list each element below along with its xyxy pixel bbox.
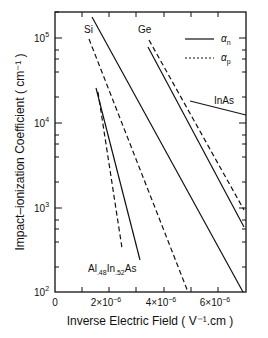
x-axis-ticks: [82, 12, 218, 292]
x-tick-labels: 0 2×10−6 4×10−6 6×10−6: [52, 296, 230, 308]
annotation-inas: InAs: [214, 95, 234, 106]
impact-ionization-chart: 105 104 103 102 0 2×10−6 4×10−6 6×10−6 I…: [0, 0, 268, 338]
y-tick-labels: 105 104 103 102: [34, 31, 49, 298]
y-tick-1e5: 105: [34, 31, 49, 44]
y-tick-1e4: 104: [34, 116, 49, 129]
x-tick-6e-6: 6×10−6: [200, 296, 231, 308]
series-ge-alpha-n: [148, 47, 244, 227]
x-axis-title: Inverse Electric Field ( V⁻¹.cm ): [67, 314, 234, 328]
y-axis-ticks-right: [239, 38, 246, 267]
y-axis-title: Impact–ionization Coefficient ( cm⁻¹ ): [13, 53, 27, 250]
series-ge-alpha-p: [149, 40, 244, 210]
legend-alpha-n-label: αn: [221, 33, 231, 46]
y-axis-ticks-left: [55, 12, 62, 267]
x-tick-4e-6: 4×10−6: [146, 296, 177, 308]
x-tick-0: 0: [52, 297, 58, 308]
annotation-si: Si: [84, 24, 93, 35]
y-tick-1e2: 102: [34, 285, 49, 298]
legend: αn αp: [185, 33, 231, 66]
annotation-ge: Ge: [138, 24, 152, 35]
plot-frame: [55, 12, 246, 292]
y-tick-1e3: 103: [34, 201, 49, 214]
legend-alpha-p-label: αp: [221, 52, 231, 66]
annotation-alinas: Al.48In.52As: [88, 263, 136, 276]
x-tick-2e-6: 2×10−6: [91, 296, 122, 308]
